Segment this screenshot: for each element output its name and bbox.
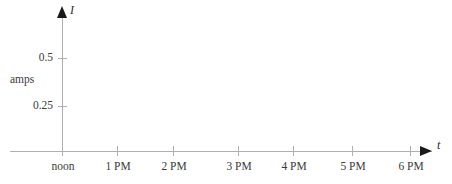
x-tick-label-4pm: 4 PM: [281, 161, 306, 173]
x-tick-label-noon: noon: [52, 161, 75, 173]
x-tick-mark: [173, 146, 174, 156]
y-tick-mark: [58, 106, 67, 107]
x-axis-line: [10, 151, 432, 152]
x-tick-label-5pm: 5 PM: [340, 161, 365, 173]
x-tick-mark: [410, 146, 411, 156]
x-axis-arrowhead-icon: [420, 146, 432, 156]
x-tick-label-2pm: 2 PM: [161, 161, 186, 173]
x-tick-mark: [352, 146, 353, 156]
x-axis-variable-label: t: [437, 139, 440, 151]
y-axis-unit-label: amps: [10, 74, 34, 86]
x-tick-mark: [117, 146, 118, 156]
y-tick-label: 0.5: [39, 52, 53, 64]
x-tick-label-3pm: 3 PM: [226, 161, 251, 173]
y-axis-arrowhead-icon: [57, 6, 67, 18]
y-tick-label: 0.25: [33, 100, 53, 112]
plot-area: [0, 0, 452, 184]
y-axis-line: [62, 16, 63, 151]
x-tick-mark: [293, 146, 294, 156]
y-tick-mark: [58, 58, 67, 59]
x-tick-label-6pm: 6 PM: [398, 161, 423, 173]
y-tick-label-wrap: 0.5: [0, 52, 53, 64]
y-axis-variable-label: I: [70, 4, 74, 16]
y-tick-label-wrap: 0.25: [0, 100, 53, 112]
x-tick-mark: [238, 146, 239, 156]
x-tick-mark: [62, 146, 63, 156]
x-tick-label-1pm: 1 PM: [105, 161, 130, 173]
current-vs-time-graph: I t amps 0.5 0.25 noon 1 PM 2 PM 3 PM 4 …: [0, 0, 452, 184]
